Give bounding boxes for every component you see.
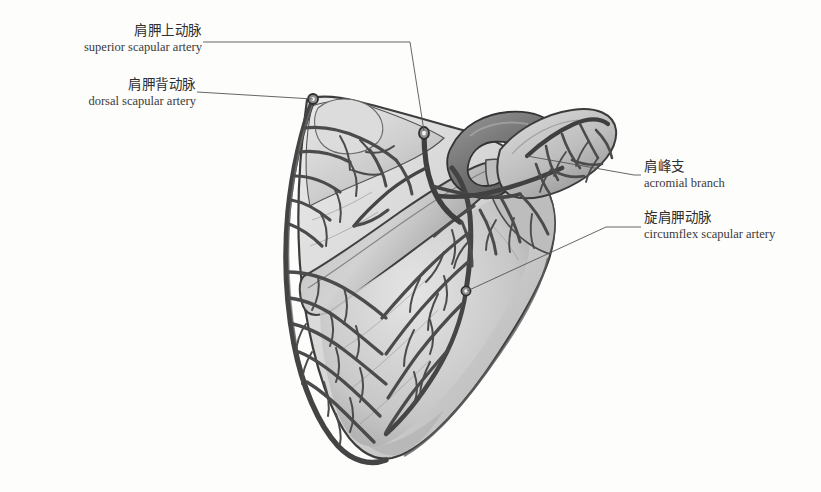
label-superior-scapular-artery: 肩胛上动脉 superior scapular artery — [6, 22, 202, 55]
label-circumflex-scapular-artery-cn: 旋肩胛动脉 — [644, 209, 821, 226]
label-dorsal-scapular-artery-cn: 肩胛背动脉 — [6, 76, 196, 93]
label-circumflex-scapular-artery-en: circumflex scapular artery — [644, 226, 821, 242]
label-circumflex-scapular-artery: 旋肩胛动脉 circumflex scapular artery — [644, 209, 821, 242]
label-dorsal-scapular-artery-en: dorsal scapular artery — [6, 93, 196, 109]
label-acromial-branch-cn: 肩峰支 — [644, 158, 821, 175]
label-superior-scapular-artery-cn: 肩胛上动脉 — [6, 22, 202, 39]
vessel-stump-superior-scapular-lumen — [422, 130, 426, 135]
scapula-figure — [0, 0, 821, 492]
label-acromial-branch: 肩峰支 acromial branch — [644, 158, 821, 191]
label-dorsal-scapular-artery: 肩胛背动脉 dorsal scapular artery — [6, 76, 196, 109]
label-acromial-branch-en: acromial branch — [644, 175, 821, 191]
label-superior-scapular-artery-en: superior scapular artery — [6, 39, 202, 55]
leader-dorsal-scapular-artery — [197, 92, 313, 99]
